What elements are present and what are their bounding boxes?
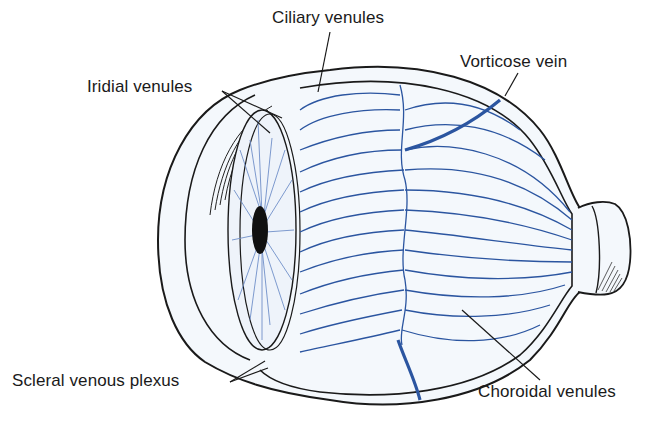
label-vorticose-vein: Vorticose vein xyxy=(460,52,567,72)
label-scleral-venous-plexus: Scleral venous plexus xyxy=(12,371,179,391)
label-iridial-venules: Iridial venules xyxy=(87,77,192,97)
label-choroidal-venules: Choroidal venules xyxy=(478,382,616,402)
leader-vorticose xyxy=(505,73,518,96)
label-ciliary-venules: Ciliary venules xyxy=(272,8,384,28)
optic-nerve xyxy=(578,202,630,295)
pupil xyxy=(252,206,268,254)
eye-venous-diagram: Ciliary venules Iridial venules Vorticos… xyxy=(0,0,658,421)
